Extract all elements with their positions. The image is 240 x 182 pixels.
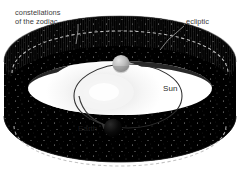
earth-sphere — [104, 119, 122, 137]
label-earth: Earth — [78, 124, 97, 133]
label-ecliptic: ecliptic — [186, 17, 209, 26]
zodiac-ecliptic-diagram: constellations of the zodiac ecliptic Su… — [0, 0, 240, 182]
label-constellations-of-the-zodiac: constellations of the zodiac — [15, 8, 60, 26]
label-zodiac-line-1: constellations — [15, 8, 60, 17]
label-zodiac-line-2: of the zodiac — [15, 17, 60, 26]
label-sun: Sun — [163, 84, 177, 93]
diagram-canvas — [0, 0, 240, 182]
